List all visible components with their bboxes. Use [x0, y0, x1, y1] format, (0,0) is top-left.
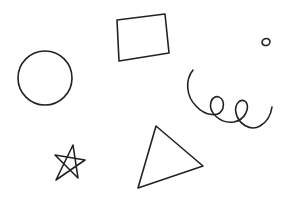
rectangle-shape [117, 14, 169, 61]
small-circle-shape [261, 37, 271, 46]
spiral-shape [188, 70, 272, 128]
circle-shape [18, 51, 72, 105]
star-shape [55, 145, 85, 180]
triangle-shape [138, 126, 203, 188]
shapes-layer [0, 0, 288, 202]
drawing-canvas [0, 0, 288, 202]
